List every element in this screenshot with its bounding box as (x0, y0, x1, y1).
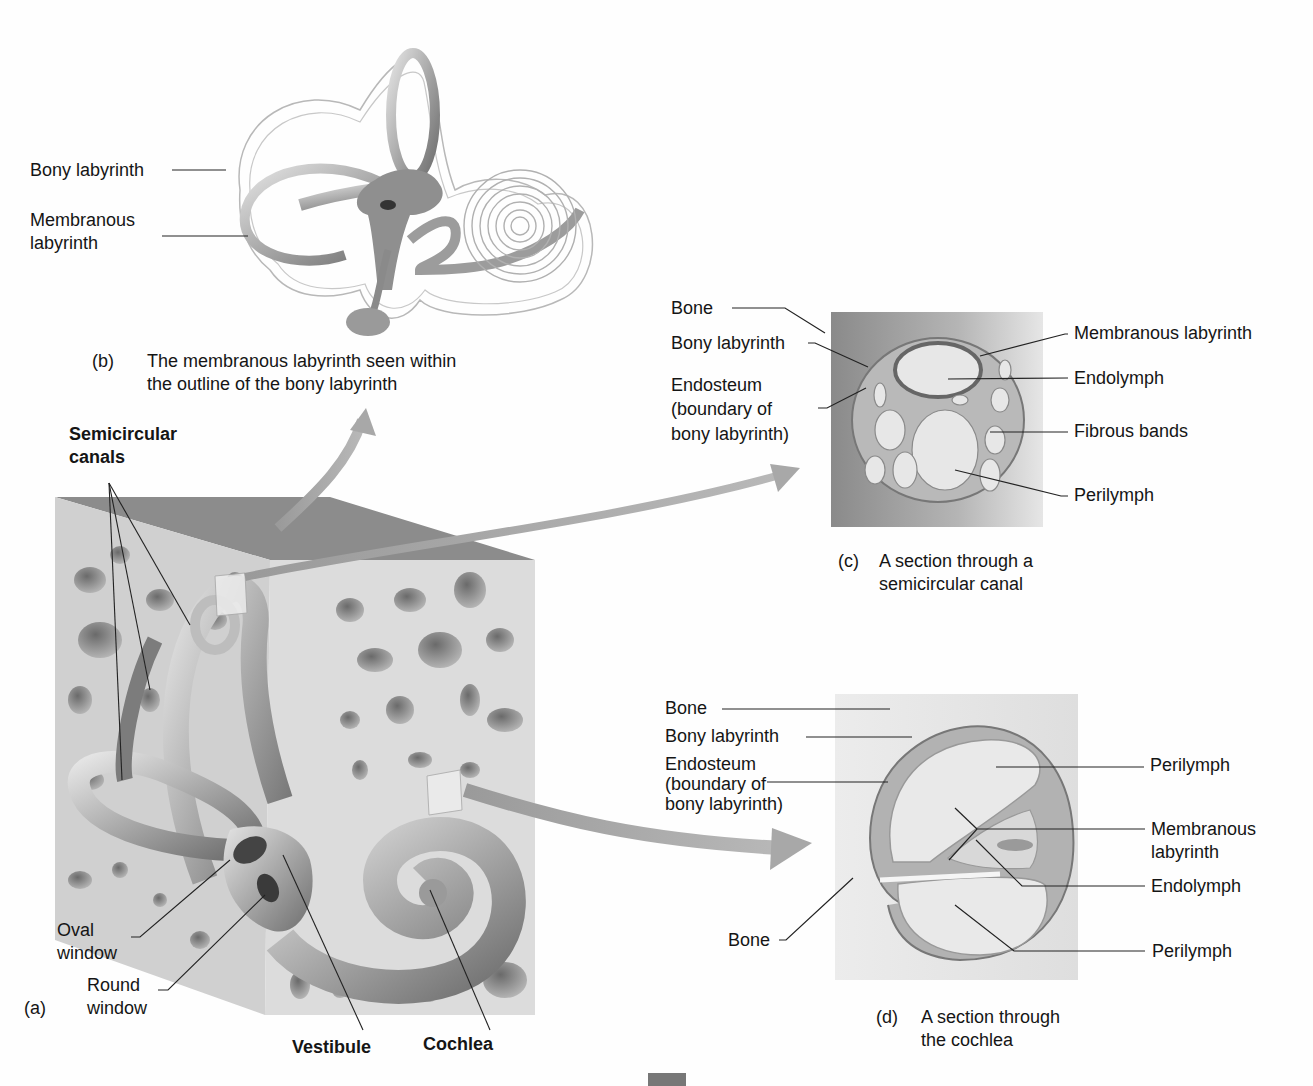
label-oval-2: window (57, 943, 117, 964)
caption-b-line2: the outline of the bony labyrinth (147, 373, 397, 395)
label-vestibule: Vestibule (292, 1037, 371, 1058)
label-c-endosteum-1: Endosteum (671, 375, 762, 396)
caption-b-line1: The membranous labyrinth seen within (147, 350, 456, 372)
label-c-bony-labyrinth: Bony labyrinth (671, 333, 785, 354)
caption-c-tag: (c) (838, 550, 859, 572)
label-d-endosteum-3: bony labyrinth) (665, 795, 783, 814)
label-round-2: window (87, 998, 147, 1019)
label-cochlea: Cochlea (423, 1034, 493, 1055)
label-semicircular-2: canals (69, 447, 125, 468)
label-c-endolymph: Endolymph (1074, 368, 1164, 389)
caption-c-line2: semicircular canal (879, 573, 1023, 595)
label-c-perilymph: Perilymph (1074, 485, 1154, 506)
label-d-bone-top: Bone (665, 698, 707, 719)
label-d-membranous-1: Membranous (1151, 819, 1256, 840)
label-d-bone-bottom: Bone (728, 930, 770, 951)
label-b-membranous-1: Membranous (30, 210, 135, 231)
label-a-tag: (a) (24, 998, 46, 1019)
label-d-perilymph-bottom: Perilymph (1152, 941, 1232, 962)
label-b-bony-labyrinth: Bony labyrinth (30, 160, 144, 181)
label-c-endosteum-2: (boundary of (671, 399, 772, 420)
panel-b-labyrinth-drawing (239, 53, 592, 336)
ap-r-badge (648, 1073, 686, 1086)
label-d-endolymph: Endolymph (1151, 876, 1241, 897)
label-b-membranous-2: labyrinth (30, 233, 98, 254)
panel-c-section-drawing (831, 312, 1043, 527)
label-d-bony-labyrinth: Bony labyrinth (665, 726, 779, 747)
inner-ear-illustration (0, 0, 1313, 1086)
caption-c: (c) A section through a semicircular can… (838, 550, 1098, 596)
caption-d-line2: the cochlea (921, 1029, 1013, 1051)
caption-c-line1: A section through a (879, 550, 1033, 572)
caption-b: (b) The membranous labyrinth seen within… (92, 350, 492, 396)
label-d-endosteum-2: (boundary of (665, 775, 766, 794)
caption-b-tag: (b) (92, 350, 114, 372)
label-d-perilymph-top: Perilymph (1150, 755, 1230, 776)
label-c-bone: Bone (671, 298, 713, 319)
caption-d-line1: A section through (921, 1006, 1060, 1028)
label-c-fibrous-bands: Fibrous bands (1074, 421, 1188, 442)
label-c-endosteum-3: bony labyrinth) (671, 424, 789, 445)
label-round-1: Round (87, 975, 140, 996)
label-semicircular-1: Semicircular (69, 424, 177, 445)
label-d-membranous-2: labyrinth (1151, 842, 1219, 863)
label-d-endosteum-1: Endosteum (665, 755, 756, 774)
label-c-membranous: Membranous labyrinth (1074, 323, 1252, 344)
caption-d: (d) A section through the cochlea (876, 1006, 1116, 1052)
caption-d-tag: (d) (876, 1006, 898, 1028)
label-oval-1: Oval (57, 920, 94, 941)
